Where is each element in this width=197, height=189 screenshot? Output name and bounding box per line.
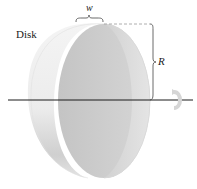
- width-brace: [76, 15, 103, 22]
- disk-label: Disk: [16, 28, 37, 40]
- rotation-arrow-icon: [172, 89, 180, 108]
- disk-face: [58, 24, 150, 178]
- width-label: w: [86, 2, 93, 13]
- radius-label: R: [158, 55, 165, 67]
- radius-brace: [150, 24, 156, 100]
